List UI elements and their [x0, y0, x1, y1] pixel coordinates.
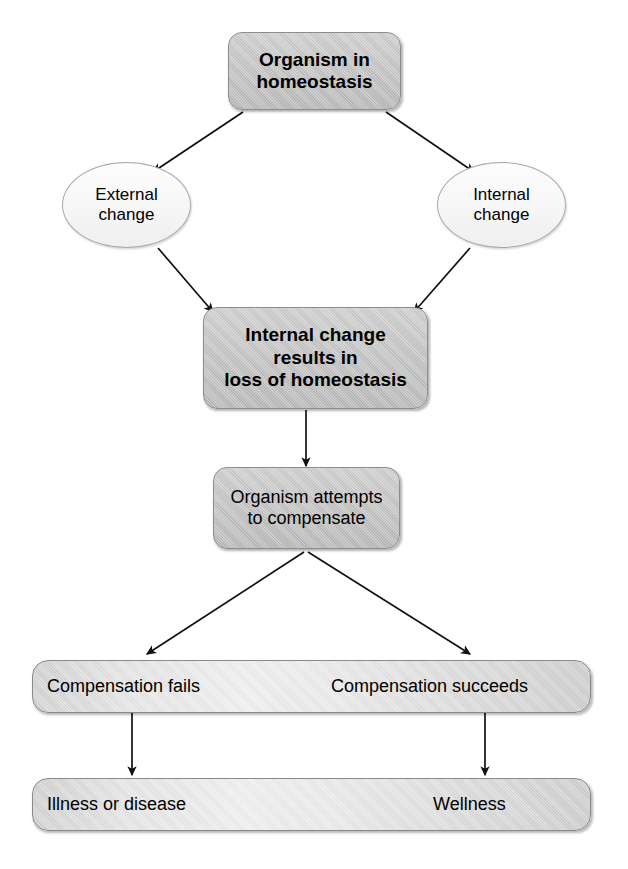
edge-external-change-to-loss — [158, 248, 213, 312]
label-illness-or-disease: Illness or disease — [47, 794, 186, 815]
node-internal-change-line2: change — [473, 205, 530, 225]
node-organism-in-homeostasis-line2: homeostasis — [256, 71, 372, 93]
node-external-change[interactable]: External change — [62, 162, 191, 248]
node-loss-of-homeostasis-line3: loss of homeostasis — [224, 369, 407, 391]
edge-homeostasis-to-external-change — [153, 112, 243, 172]
node-loss-of-homeostasis-line2: results in — [224, 347, 407, 369]
node-organism-in-homeostasis-line1: Organism in — [256, 49, 372, 71]
node-organism-attempts-to-compensate-line2: to compensate — [230, 508, 382, 529]
node-loss-of-homeostasis[interactable]: Internal change results in loss of homeo… — [203, 307, 428, 409]
node-outcome-bar[interactable]: Illness or disease Wellness — [32, 778, 591, 831]
node-external-change-line1: External — [95, 185, 157, 205]
edge-internal-change-to-loss — [414, 248, 470, 312]
node-internal-change[interactable]: Internal change — [437, 162, 566, 248]
node-organism-in-homeostasis[interactable]: Organism in homeostasis — [228, 32, 401, 110]
flowchart-connectors — [0, 0, 628, 869]
node-organism-attempts-to-compensate[interactable]: Organism attempts to compensate — [213, 467, 400, 549]
label-compensation-succeeds: Compensation succeeds — [331, 676, 528, 697]
label-wellness: Wellness — [433, 794, 506, 815]
edge-compensate-to-fails — [147, 552, 304, 654]
label-compensation-fails: Compensation fails — [47, 676, 200, 697]
node-organism-attempts-to-compensate-line1: Organism attempts — [230, 487, 382, 508]
node-loss-of-homeostasis-line1: Internal change — [224, 324, 407, 346]
edge-compensate-to-succeeds — [308, 552, 470, 654]
node-external-change-line2: change — [95, 205, 157, 225]
node-internal-change-line1: Internal — [473, 185, 530, 205]
node-compensation-bar[interactable]: Compensation fails Compensation succeeds — [32, 660, 591, 713]
edge-homeostasis-to-internal-change — [386, 112, 474, 172]
flowchart-canvas: Organism in homeostasis External change … — [0, 0, 628, 869]
